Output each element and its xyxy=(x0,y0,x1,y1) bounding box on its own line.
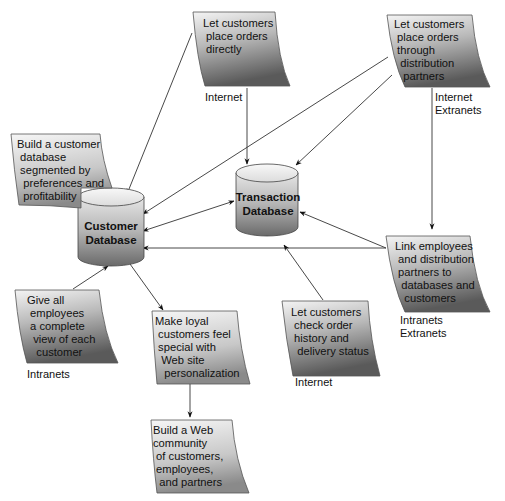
customer-database-label-line1: Customer xyxy=(84,220,138,232)
note-build-web-community[interactable]: Build a Web community of customers, empl… xyxy=(151,420,249,493)
note-line: and partners xyxy=(153,476,222,488)
note-line: community xyxy=(153,437,207,449)
edge-link-employees-to-transaction-db xyxy=(300,212,386,248)
note-line: history and xyxy=(291,332,349,344)
note-line: Build a Web xyxy=(153,424,213,436)
note-line: Give all xyxy=(27,294,64,306)
note-line: Web site xyxy=(155,354,205,366)
network-label: Internet xyxy=(435,91,472,103)
note-line: Make loyal xyxy=(155,315,208,327)
note-line: database xyxy=(17,151,66,163)
note-line: Build a customer xyxy=(17,138,101,150)
note-line: place orders xyxy=(203,30,268,42)
note-line: Let customers xyxy=(203,17,274,29)
note-line: profitability xyxy=(17,190,77,202)
note-line: Link employees xyxy=(395,240,473,252)
network-label: Internet xyxy=(295,376,332,388)
note-give-employees-view[interactable]: Give all employees a complete view of ea… xyxy=(15,290,118,380)
note-line: a complete xyxy=(27,320,85,332)
note-line: through xyxy=(394,44,435,56)
customer-database-label-line2: Database xyxy=(85,234,136,246)
network-label: Extranets xyxy=(400,327,447,339)
note-line: and distribution xyxy=(395,253,474,265)
edge-customer-db-to-make-special xyxy=(130,264,163,310)
note-line: employees xyxy=(27,307,85,319)
transaction-database-label-line2: Database xyxy=(242,205,293,217)
note-place-orders-directly[interactable]: Let customers place orders directly Inte… xyxy=(193,12,290,103)
note-make-customers-special[interactable]: Make loyal customers feel special with W… xyxy=(152,311,250,384)
note-line: of customers, xyxy=(153,450,223,462)
note-line: personalization xyxy=(155,367,240,379)
note-line: customers feel xyxy=(155,328,231,340)
note-line: partners to xyxy=(395,266,452,278)
ecommerce-database-diagram: Customer Database Transaction Database L… xyxy=(0,0,505,501)
transaction-database-label-line1: Transaction xyxy=(236,191,301,203)
note-line: place orders xyxy=(394,31,459,43)
network-label: Intranets xyxy=(400,314,443,326)
note-line: customer xyxy=(27,346,83,358)
customer-database[interactable]: Customer Database xyxy=(78,188,144,266)
edge-give-employees-to-customer-db xyxy=(73,266,108,289)
note-line: partners xyxy=(394,70,445,82)
network-label: Intranets xyxy=(27,368,70,380)
edge-place-direct-to-customer-db xyxy=(127,33,192,194)
note-line: check order xyxy=(291,319,353,331)
note-line: Let customers xyxy=(291,306,362,318)
note-line: preferences and xyxy=(17,177,104,189)
transaction-database-top xyxy=(236,164,298,182)
note-line: segmented by xyxy=(17,164,91,176)
note-line: Let customers xyxy=(394,18,465,30)
edge-check-order-to-transaction-db xyxy=(284,245,323,300)
note-line: delivery status xyxy=(291,345,369,357)
note-line: distribution xyxy=(394,57,454,69)
customer-database-top xyxy=(78,188,144,206)
note-line: customers xyxy=(395,292,456,304)
note-line: directly xyxy=(203,43,242,55)
note-line: special with xyxy=(155,341,216,353)
note-line: databases and xyxy=(395,279,475,291)
note-link-employees[interactable]: Link employees and distribution partners… xyxy=(386,236,490,339)
note-place-orders-partners[interactable]: Let customers place orders through distr… xyxy=(387,15,490,116)
note-line: view of each xyxy=(27,333,95,345)
edge-partners-to-transaction-db xyxy=(296,75,392,165)
network-label: Extranets xyxy=(435,104,482,116)
network-label: Internet xyxy=(205,91,242,103)
note-line: employees, xyxy=(153,463,213,475)
note-check-order-history[interactable]: Let customers check order history and de… xyxy=(282,301,380,388)
transaction-database[interactable]: Transaction Database xyxy=(236,164,301,236)
